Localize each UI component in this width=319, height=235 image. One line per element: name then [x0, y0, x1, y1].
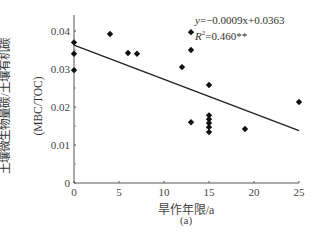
panel-label: (a) [0, 214, 319, 226]
data-point-diamond [206, 129, 212, 135]
data-point-diamond [188, 119, 194, 125]
x-tick-label: 10 [159, 186, 171, 198]
data-point-diamond [242, 126, 248, 132]
y-axis-label-line2: (MBC/TOC) [32, 76, 44, 135]
y-tick-label: 0.01 [51, 139, 70, 151]
data-point-diamond [188, 47, 194, 53]
y-axis-label-line1: 土壤微生物量碳/土壤有机碳 [0, 38, 12, 173]
axes [74, 15, 299, 183]
y-tick-label: 0.03 [51, 63, 71, 75]
data-point-diamond [296, 99, 302, 105]
y-tick-label: 0.02 [51, 101, 70, 113]
data-point-diamond [134, 51, 140, 57]
regression-line [74, 45, 299, 131]
data-point-diamond [107, 31, 113, 37]
data-point-diamond [179, 64, 185, 70]
data-point-diamond [125, 50, 131, 56]
x-tick-label: 15 [204, 186, 216, 198]
y-tick-label: 0.04 [51, 25, 71, 37]
data-point-diamond [188, 29, 194, 35]
r-squared-annotation: R2=0.460** [195, 29, 247, 42]
data-point-diamond [71, 67, 77, 73]
data-point-diamond [71, 39, 77, 45]
x-tick-label: 0 [71, 186, 77, 198]
y-tick-label: 0 [65, 177, 71, 189]
regression-equation: y=−0.0009x+0.0363 [195, 14, 285, 26]
x-tick-label: 5 [116, 186, 122, 198]
y-axis-label: 土壤微生物量碳/土壤有机碳 (MBC/TOC) [2, 20, 50, 195]
data-point-diamond [71, 51, 77, 57]
x-tick-label: 25 [294, 186, 306, 198]
data-point-diamond [206, 82, 212, 88]
x-tick-label: 20 [249, 186, 261, 198]
